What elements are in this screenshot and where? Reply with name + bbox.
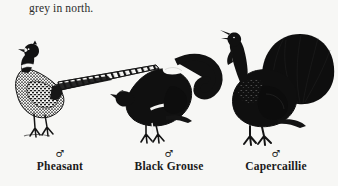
capercaillie-eye <box>233 37 235 39</box>
black-grouse-beak <box>110 94 117 99</box>
black-grouse-leg-left <box>141 124 152 143</box>
capercaillie-vent-spray <box>277 119 306 128</box>
male-symbol-icon: ♂ <box>108 148 230 159</box>
pheasant-beak <box>18 49 25 53</box>
capercaillie-leg-right <box>258 127 271 145</box>
species-name-pheasant: Pheasant <box>0 159 120 173</box>
species-label-pheasant: ♂ Pheasant <box>0 148 120 173</box>
black-grouse-undertail-white <box>163 66 185 75</box>
capercaillie-leg-left <box>244 126 256 145</box>
male-symbol-icon: ♂ <box>0 148 120 159</box>
black-grouse-leg-feathering <box>152 123 153 134</box>
species-name-capercaillie: Capercaillie <box>214 159 338 173</box>
black-grouse-wattle <box>119 90 124 92</box>
plate-artwork <box>0 24 338 150</box>
species-label-row: ♂ Pheasant ♂ Black Grouse ♂ Capercaillie <box>0 146 338 186</box>
black-grouse-leg-right <box>153 125 164 143</box>
pheasant-ground-line <box>24 135 50 137</box>
illustration-page: grey in north. <box>0 0 338 186</box>
species-name-black-grouse: Black Grouse <box>108 159 230 173</box>
capercaillie-figure <box>220 30 334 145</box>
male-symbol-icon: ♂ <box>214 148 338 159</box>
species-label-capercaillie: ♂ Capercaillie <box>214 148 338 173</box>
pheasant-eye <box>28 48 30 50</box>
capercaillie-beak-upper <box>220 30 230 35</box>
species-label-black-grouse: ♂ Black Grouse <box>108 148 230 173</box>
pheasant-ear-tuft <box>33 41 37 45</box>
top-note-text: grey in north. <box>29 1 93 15</box>
bird-illustration-plate <box>0 24 338 150</box>
